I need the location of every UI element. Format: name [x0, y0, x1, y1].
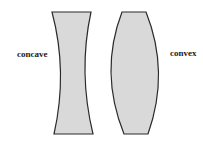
convex-label: convex [170, 49, 197, 58]
lens-shapes [0, 0, 203, 142]
concave-lens [52, 12, 93, 134]
lens-diagram: concave convex [0, 0, 203, 142]
convex-lens [111, 12, 159, 134]
concave-label: concave [17, 50, 48, 59]
